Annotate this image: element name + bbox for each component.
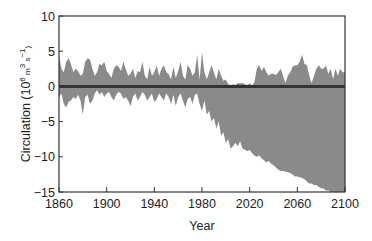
y-tick-label: 0 <box>48 80 55 94</box>
data-band <box>59 53 345 192</box>
x-axis: 1860190019401980202020602100 <box>45 187 359 211</box>
x-tick-label: 1940 <box>140 197 168 211</box>
x-tick-label: 2100 <box>331 197 359 211</box>
chart: 1860190019401980202020602100 1050−5−10−1… <box>0 0 372 241</box>
plot-area <box>59 53 345 192</box>
x-tick-label: 1980 <box>188 197 216 211</box>
x-axis-title: Year <box>189 219 214 233</box>
y-axis-title: Circulation (106 m3 s−1) <box>18 45 33 162</box>
x-tick-label: 2020 <box>236 197 264 211</box>
y-tick-label: 5 <box>48 45 55 59</box>
y-tick-label: −10 <box>34 150 55 164</box>
x-tick-label: 1900 <box>93 197 121 211</box>
x-tick-label: 2060 <box>283 197 311 211</box>
y-tick-label: −15 <box>34 186 55 200</box>
y-tick-label: −5 <box>41 115 55 129</box>
y-tick-label: 10 <box>41 10 55 24</box>
